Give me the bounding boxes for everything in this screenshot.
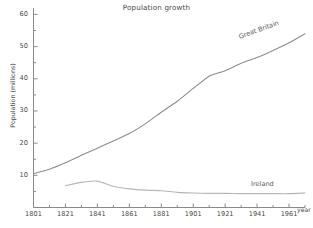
y-axis-ticks [34,14,38,191]
x-tick-label: 1881 [146,210,176,218]
x-tick-label: 1821 [50,210,80,218]
axes [34,8,306,208]
y-axis-title: Population (millions) [9,46,16,146]
x-tick-label: 1801 [19,210,49,218]
y-tick-label: 20 [6,139,28,147]
y-tick-label: 40 [6,74,28,82]
y-tick-label: 30 [6,106,28,114]
x-tick-label: 1941 [242,210,272,218]
y-tick-label: 60 [6,10,28,18]
chart-title: Population growth [0,3,313,12]
data-series [34,34,306,194]
x-tick-label: 1901 [178,210,208,218]
y-tick-label: 50 [6,42,28,50]
x-axis-title: year [297,206,311,213]
y-tick-label: 10 [6,171,28,179]
x-axis-ticks [34,204,306,208]
plot-area [0,0,313,228]
x-tick-label: 1921 [210,210,240,218]
x-tick-label: 1861 [114,210,144,218]
series-line-great-britain [34,34,306,174]
x-tick-label: 1841 [82,210,112,218]
series-label-ireland: Ireland [251,180,274,188]
population-growth-chart: Population growth Population (millions) … [0,0,313,228]
